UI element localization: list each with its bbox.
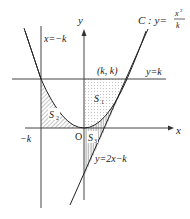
horizontal-line-label: y=k <box>145 66 162 77</box>
svg-text:S: S <box>88 132 93 143</box>
origin-label: O <box>75 131 82 142</box>
x-axis-arrow-icon <box>168 126 174 131</box>
parabola-area-diagram: y x O −k x=−k y=k y=2x−k (k, k) C : y= x… <box>0 0 190 219</box>
tangent-line <box>70 29 148 205</box>
tangent-line-label: y=2x−k <box>94 153 127 164</box>
svg-text:S: S <box>49 109 54 120</box>
y-axis-label: y <box>77 14 83 26</box>
curve-label: C : y= <box>138 14 167 26</box>
tangent-point-label: (k, k) <box>97 65 118 77</box>
x-axis-label: x <box>175 124 181 136</box>
y-axis-arrow-icon <box>82 29 87 36</box>
curve-c-left <box>24 28 41 79</box>
region-s2 <box>41 79 84 128</box>
vertical-line-label: x=−k <box>43 33 67 44</box>
svg-text:S: S <box>94 93 99 104</box>
svg-text:3: 3 <box>94 138 97 144</box>
curve-label-denominator: k <box>176 21 180 30</box>
region-s3-label: S 3 <box>87 131 98 144</box>
region-s2-label: S 2 <box>48 108 60 121</box>
neg-k-tick-label: −k <box>20 133 32 144</box>
curve-label-exponent: 2 <box>180 8 183 13</box>
svg-text:2: 2 <box>56 115 59 121</box>
curve-label-numerator: x <box>174 9 179 18</box>
svg-text:1: 1 <box>101 99 104 105</box>
